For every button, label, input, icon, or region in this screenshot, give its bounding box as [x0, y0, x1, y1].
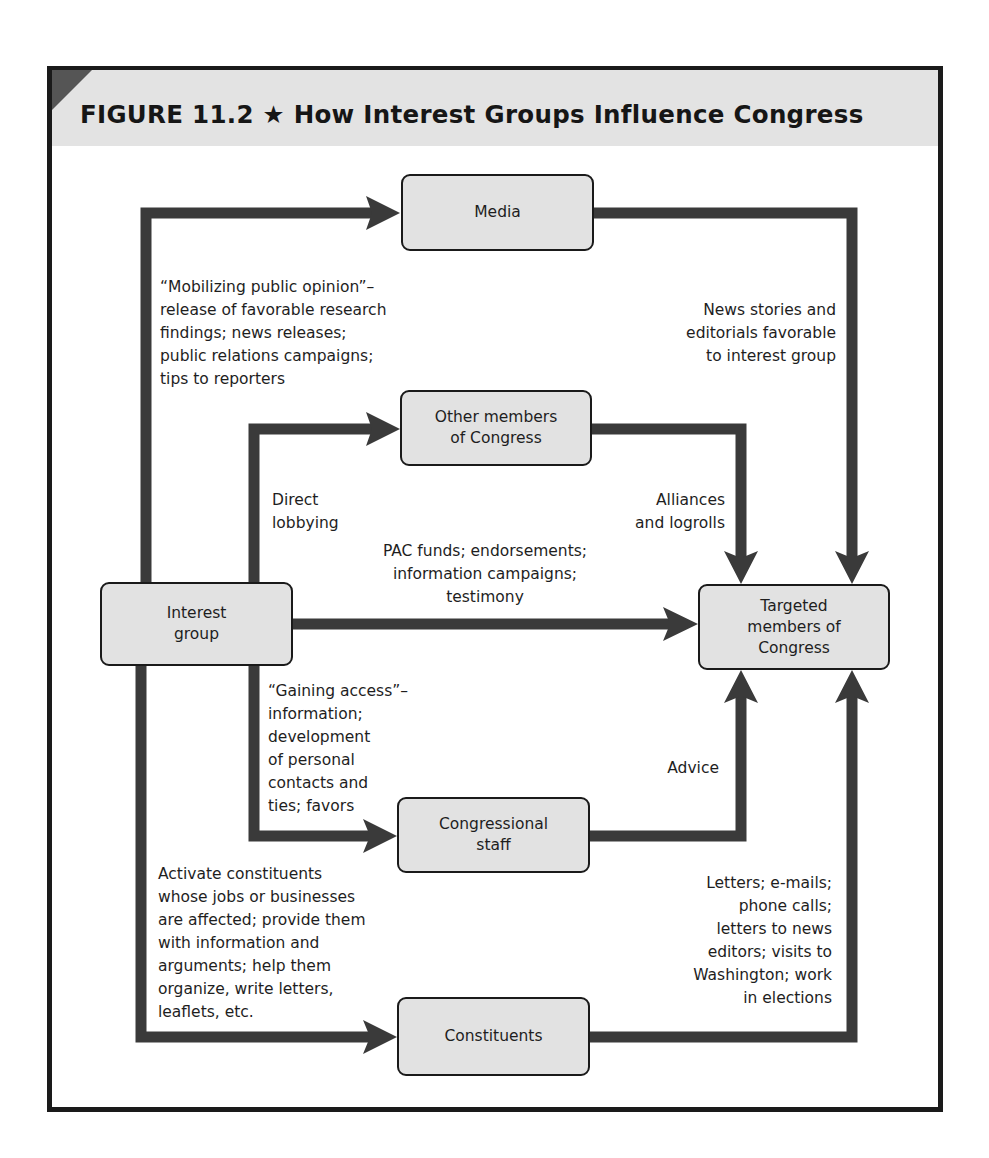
node-other-members: Other membersof Congress — [400, 390, 592, 466]
label-letters-emails: Letters; e-mails;phone calls;letters to … — [693, 872, 832, 1010]
node-media: Media — [401, 174, 594, 251]
label-pac-funds: PAC funds; endorsements;information camp… — [340, 540, 630, 609]
label-advice: Advice — [667, 757, 719, 780]
edge-interest-media — [146, 213, 378, 582]
label-mobilizing-public-opinion: “Mobilizing public opinion”–release of f… — [160, 276, 386, 391]
label-gaining-access: “Gaining access”–information;development… — [268, 680, 408, 818]
node-interest-group: Interestgroup — [100, 582, 293, 666]
node-targeted-members: Targetedmembers ofCongress — [698, 584, 890, 670]
label-direct-lobbying: Directlobbying — [272, 489, 339, 535]
node-congressional-staff: Congressionalstaff — [397, 797, 590, 873]
label-alliances-logrolls: Alliancesand logrolls — [635, 489, 725, 535]
label-news-stories: News stories andeditorials favorableto i… — [686, 299, 836, 368]
label-activate-constituents: Activate constituentswhose jobs or busin… — [158, 863, 366, 1024]
node-constituents: Constituents — [397, 997, 590, 1076]
